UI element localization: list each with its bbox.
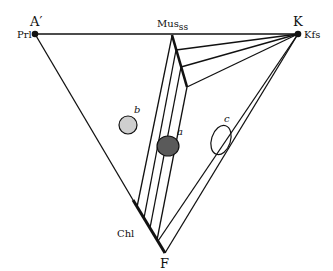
ternary-diagram: b a c A′ Prl K Kfs Musss Chl F: [0, 0, 333, 271]
field-b: b: [119, 104, 140, 134]
kfs-label: Kfs: [304, 29, 320, 40]
vertex-kfs-dot: [295, 31, 302, 38]
field-a-marker: [157, 136, 179, 156]
field-b-label: b: [134, 104, 140, 115]
mus-subscript: ss: [179, 22, 189, 32]
field-a-label: a: [177, 126, 183, 137]
chl-label: Chl: [117, 228, 134, 239]
field-c: c: [207, 113, 234, 157]
edge-prl-chl: [35, 34, 133, 200]
mus-main: Mus: [157, 18, 179, 29]
vertex-f-label: F: [160, 256, 169, 271]
vertex-a-prime-label: A′: [29, 14, 42, 29]
mus-label: Musss: [157, 18, 188, 32]
vertex-prl-dot: [32, 31, 39, 38]
triangle-outline: [35, 34, 298, 200]
field-c-marker: [207, 123, 234, 157]
prl-label: Prl: [17, 29, 32, 40]
vertex-k-label: K: [293, 14, 303, 29]
field-c-label: c: [224, 113, 230, 124]
field-b-marker: [119, 116, 137, 134]
